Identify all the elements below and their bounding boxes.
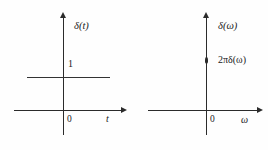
panel-frequency-domain: δ(ω) 2πδ(ω) 0 ω — [134, 0, 268, 150]
impulse-marker — [205, 57, 208, 64]
vertical-axis-arrow-icon — [60, 12, 66, 18]
vertical-axis-arrow-icon — [203, 12, 209, 18]
origin-label-time: 0 — [67, 115, 72, 125]
horizontal-axis-line — [14, 110, 122, 111]
amplitude-label-two-pi-delta: 2πδ(ω) — [218, 55, 246, 65]
horizontal-axis-arrow-icon — [257, 107, 263, 113]
vertical-axis-label-time: δ(t) — [74, 21, 89, 32]
horizontal-axis-label-time: t — [106, 114, 109, 124]
vertical-axis-line — [206, 18, 207, 135]
fourier-transform-pair-figure: δ(t) 1 0 t δ(ω) 2πδ(ω) 0 ω — [0, 0, 268, 150]
horizontal-axis-line — [148, 110, 258, 111]
vertical-axis-label-frequency: δ(ω) — [218, 21, 237, 32]
horizontal-axis-arrow-icon — [121, 107, 127, 113]
origin-label-frequency: 0 — [210, 115, 215, 125]
panel-time-domain: δ(t) 1 0 t — [0, 0, 134, 150]
horizontal-axis-label-frequency: ω — [241, 115, 248, 125]
constant-level-line — [27, 77, 110, 79]
amplitude-label-one: 1 — [68, 59, 73, 69]
